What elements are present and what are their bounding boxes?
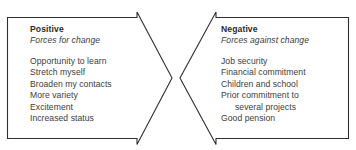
positive-force-item: Increased status	[30, 113, 112, 125]
positive-force-item: Opportunity to learn	[30, 56, 112, 68]
positive-force-item: Excitement	[30, 102, 112, 114]
positive-panel-subtitle: Forces for change	[30, 35, 112, 47]
positive-forces-panel: Positive Forces for change Opportunity t…	[30, 24, 112, 125]
positive-force-item: Broaden my contacts	[30, 79, 112, 91]
positive-forces-list: Opportunity to learnStretch myselfBroade…	[30, 56, 112, 126]
negative-force-item: several projects	[221, 102, 309, 114]
negative-forces-list: Job securityFinancial commitmentChildren…	[221, 56, 309, 126]
positive-force-item: Stretch myself	[30, 67, 112, 79]
negative-force-item: Prior commitment to	[221, 90, 309, 102]
diagram-canvas: Positive Forces for change Opportunity t…	[0, 0, 356, 150]
negative-forces-panel: Negative Forces against change Job secur…	[221, 24, 309, 125]
positive-panel-title: Positive	[30, 24, 112, 35]
negative-panel-title: Negative	[221, 24, 309, 35]
negative-force-item: Financial commitment	[221, 67, 309, 79]
negative-force-item: Children and school	[221, 79, 309, 91]
negative-force-item: Good pension	[221, 113, 309, 125]
positive-force-item: More variety	[30, 90, 112, 102]
negative-force-item: Job security	[221, 56, 309, 68]
negative-panel-subtitle: Forces against change	[221, 35, 309, 47]
